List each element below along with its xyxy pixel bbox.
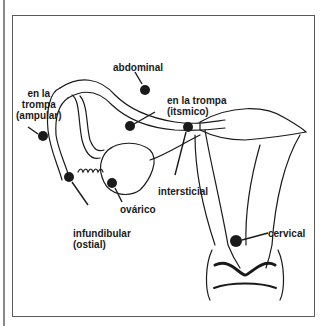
tube-fold-inner	[80, 96, 104, 151]
label-infundibular: infundibular (ostial)	[73, 228, 131, 250]
embryo-cervical	[230, 235, 242, 247]
embryo-infundibular	[64, 172, 74, 182]
uterus-left-wall	[205, 130, 240, 268]
arrow-abdominal	[135, 72, 142, 84]
anatomy-illustration	[0, 0, 325, 326]
label-itsmico: en la trompa (itsmico)	[167, 95, 226, 117]
label-ampular: en la trompa (ampular)	[16, 88, 62, 121]
label-ovarico: ovárico	[120, 204, 156, 215]
arrow-infundibular	[72, 182, 88, 205]
label-cervical: cervical	[268, 228, 305, 239]
cervix-right	[278, 250, 284, 300]
fimbriae	[78, 169, 103, 172]
vaginal-canal	[214, 284, 276, 289]
embryo-itsmico	[125, 121, 135, 131]
uterus-right-wall	[266, 135, 300, 268]
vaginal-fornix	[215, 263, 275, 275]
embryo-ampular	[38, 131, 48, 141]
uterus-right-inner	[246, 145, 260, 245]
embryo-intersticial	[183, 122, 193, 132]
label-intersticial: intersticial	[158, 186, 208, 197]
embryo-abdominal	[140, 85, 150, 95]
arrow-intersticial	[175, 132, 186, 175]
cervix	[206, 250, 212, 300]
arrow-ovarico	[115, 188, 122, 202]
label-abdominal: abdominal	[113, 62, 163, 73]
ovarian-ligament	[150, 135, 200, 160]
ovary	[101, 143, 155, 194]
embryo-ovarico	[107, 178, 117, 188]
arrow-ampular	[28, 127, 38, 134]
